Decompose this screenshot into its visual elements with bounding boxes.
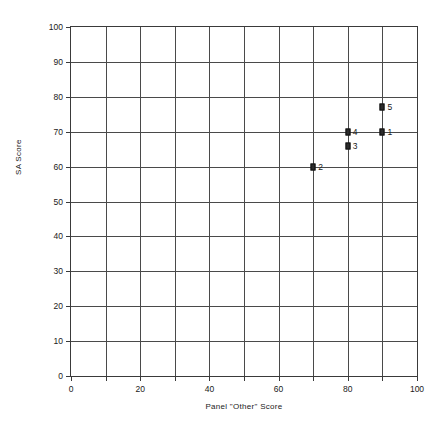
x-axis-tick-label: 20 xyxy=(135,385,144,394)
y-axis-tick-label: 40 xyxy=(54,232,63,241)
gridline-horizontal xyxy=(71,306,417,307)
y-axis-tick-label: 30 xyxy=(54,267,63,276)
x-axis-tick xyxy=(106,376,107,381)
y-axis-tick xyxy=(66,27,71,28)
data-point-label: 4 xyxy=(353,127,358,136)
x-axis-tick xyxy=(348,376,349,381)
y-axis-tick xyxy=(66,167,71,168)
data-point xyxy=(345,142,350,149)
y-axis-tick xyxy=(66,271,71,272)
y-axis-tick-label: 70 xyxy=(54,127,63,136)
x-axis-tick xyxy=(417,376,418,381)
x-axis-tick xyxy=(382,376,383,381)
x-axis-tick-label: 0 xyxy=(69,385,74,394)
y-axis-tick-label: 10 xyxy=(54,337,63,346)
data-point-label: 1 xyxy=(387,127,392,136)
gridline-horizontal xyxy=(71,132,417,133)
x-axis-title: Panel "Other" Score xyxy=(70,402,418,411)
data-point-label: 3 xyxy=(353,141,358,150)
gridline-horizontal xyxy=(71,236,417,237)
x-axis-tick-label: 80 xyxy=(343,385,352,394)
data-point-label: 2 xyxy=(318,162,323,171)
data-point xyxy=(345,128,350,135)
y-axis-tick xyxy=(66,132,71,133)
x-axis-tick xyxy=(175,376,176,381)
y-axis-title: SA Score xyxy=(14,139,23,175)
y-axis-tick xyxy=(66,202,71,203)
x-axis-tick-label: 40 xyxy=(205,385,214,394)
x-axis-tick xyxy=(71,376,72,381)
x-axis-tick-label: 100 xyxy=(410,385,424,394)
plot-area: 010203040506070809010002040608010012345 xyxy=(70,26,418,377)
data-point xyxy=(380,104,385,111)
y-axis-tick-label: 80 xyxy=(54,93,63,102)
gridline-horizontal xyxy=(71,167,417,168)
y-axis-tick xyxy=(66,62,71,63)
x-axis-tick xyxy=(279,376,280,381)
y-axis-tick xyxy=(66,341,71,342)
y-axis-tick-label: 100 xyxy=(49,23,63,32)
gridline-horizontal xyxy=(71,97,417,98)
y-axis-tick-label: 90 xyxy=(54,58,63,67)
gridline-horizontal xyxy=(71,62,417,63)
y-axis-tick-label: 50 xyxy=(54,197,63,206)
y-axis-tick xyxy=(66,306,71,307)
gridline-horizontal xyxy=(71,202,417,203)
data-point xyxy=(380,128,385,135)
gridline-horizontal xyxy=(71,341,417,342)
y-axis-tick-label: 0 xyxy=(58,372,63,381)
y-axis-tick xyxy=(66,236,71,237)
x-axis-tick xyxy=(140,376,141,381)
data-point-label: 5 xyxy=(387,103,392,112)
scatter-chart-figure: 010203040506070809010002040608010012345 … xyxy=(0,0,441,431)
x-axis-tick-label: 60 xyxy=(274,385,283,394)
y-axis-tick xyxy=(66,97,71,98)
data-point xyxy=(311,163,316,170)
x-axis-tick xyxy=(313,376,314,381)
y-axis-tick-label: 20 xyxy=(54,302,63,311)
x-axis-tick xyxy=(244,376,245,381)
gridline-horizontal xyxy=(71,271,417,272)
y-axis-tick-label: 60 xyxy=(54,162,63,171)
x-axis-tick xyxy=(209,376,210,381)
